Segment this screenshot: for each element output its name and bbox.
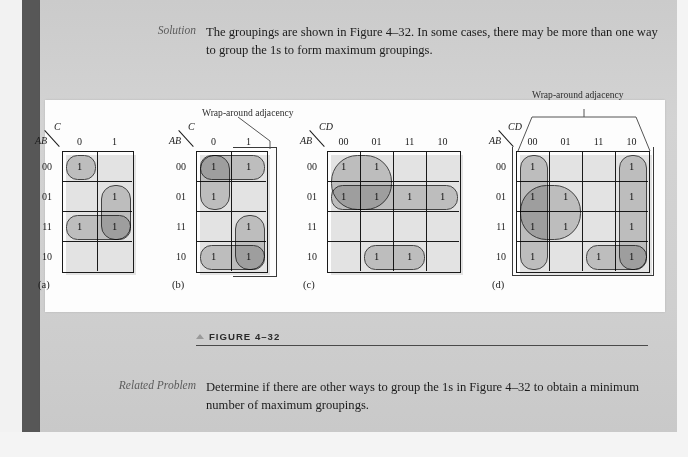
kmap-d-wrap-rails: [512, 147, 654, 276]
kmap-c-row-header-10: 10: [301, 241, 323, 271]
kmap-b-sublabel: (b): [172, 279, 184, 290]
kmap-c-cell-10-11: 1: [393, 241, 426, 271]
related-problem-text: Determine if there are other ways to gro…: [206, 379, 658, 414]
kmap-d-sublabel: (d): [492, 279, 504, 290]
kmap-c-cell-01-10: 1: [426, 181, 459, 211]
kmap-c-col-header-00: 00: [327, 134, 360, 148]
related-problem-block: Related Problem Determine if there are o…: [84, 379, 658, 414]
kmap-a-hline-3: [62, 241, 132, 242]
kmap-a-cell-01-1: 1: [97, 181, 132, 211]
kmap-c-cell-01-01: 1: [360, 181, 393, 211]
kmap-c-hline-2: [327, 211, 459, 212]
kmap-c-row-variable: AB: [300, 135, 312, 146]
kmap-d-row-header-00: 00: [490, 151, 512, 181]
kmap-a-col-variable: C: [54, 121, 61, 132]
kmap-b-wrap-leader: [196, 115, 316, 155]
kmap-c-row-header-00: 00: [301, 151, 323, 181]
kmap-b-row-header-10: 10: [170, 241, 192, 271]
kmap-d-row-header-11: 11: [490, 211, 512, 241]
kmap-a-row-header-00: 00: [36, 151, 58, 181]
kmap-a-cell-00-0: 1: [62, 151, 97, 181]
kmap-a-cell-11-1: 1: [97, 211, 132, 241]
kmap-b-row-header-01: 01: [170, 181, 192, 211]
kmap-b-wrap-bracket: [233, 147, 277, 277]
kmap-a-col-header-0: 0: [62, 134, 97, 148]
kmap-a-row-header-01: 01: [36, 181, 58, 211]
kmap-c-col-header-01: 01: [360, 134, 393, 148]
kmap-a-cell-11-0: 1: [62, 211, 97, 241]
kmap-b-col-variable: C: [188, 121, 195, 132]
kmap-c-col-header-11: 11: [393, 134, 426, 148]
kmap-a-sublabel: (a): [38, 279, 50, 290]
kmap-c-cell-00-00: 1: [327, 151, 360, 181]
kmap-c-sublabel: (c): [303, 279, 315, 290]
kmap-c-cell-10-01: 1: [360, 241, 393, 271]
screenshot-root: Solution The groupings are shown in Figu…: [0, 0, 688, 457]
kmap-c-cell-01-00: 1: [327, 181, 360, 211]
figure-caption: FIGURE 4–32: [196, 331, 648, 346]
kmap-b-row-header-11: 11: [170, 211, 192, 241]
kmap-a-col-header-1: 1: [97, 134, 132, 148]
kmap-a-row-variable: AB: [35, 135, 47, 146]
kmap-c-cell-01-11: 1: [393, 181, 426, 211]
caption-rule: [196, 345, 648, 346]
related-problem-label: Related Problem: [84, 379, 206, 414]
solution-text: The groupings are shown in Figure 4–32. …: [206, 24, 658, 59]
page-bottom-edge: [0, 432, 688, 457]
kmap-c-col-variable: CD: [319, 121, 333, 132]
kmap-d-wrap-label: Wrap-around adjacency: [532, 89, 624, 100]
kmap-b-row-header-00: 00: [170, 151, 192, 181]
page-left-margin: [0, 0, 22, 457]
caption-triangle-icon: [196, 334, 204, 339]
kmap-b-row-variable: AB: [169, 135, 181, 146]
kmap-c-row-header-11: 11: [301, 211, 323, 241]
kmap-b-cell-01-0: 1: [196, 181, 231, 211]
kmap-d-row-variable: AB: [489, 135, 501, 146]
page-right-edge: [677, 0, 688, 457]
solution-label: Solution: [84, 24, 206, 59]
figure-number: FIGURE 4–32: [209, 331, 280, 342]
kmap-c-col-header-10: 10: [426, 134, 459, 148]
kmap-a-row-header-10: 10: [36, 241, 58, 271]
kmap-d-row-header-10: 10: [490, 241, 512, 271]
kmap-d-row-header-01: 01: [490, 181, 512, 211]
kmap-c-cell-00-01: 1: [360, 151, 393, 181]
kmap-b-cell-10-0: 1: [196, 241, 231, 271]
solution-block: Solution The groupings are shown in Figu…: [84, 24, 658, 59]
kmap-c-row-header-01: 01: [301, 181, 323, 211]
kmap-a-row-header-11: 11: [36, 211, 58, 241]
kmap-b-cell-00-0: 1: [196, 151, 231, 181]
